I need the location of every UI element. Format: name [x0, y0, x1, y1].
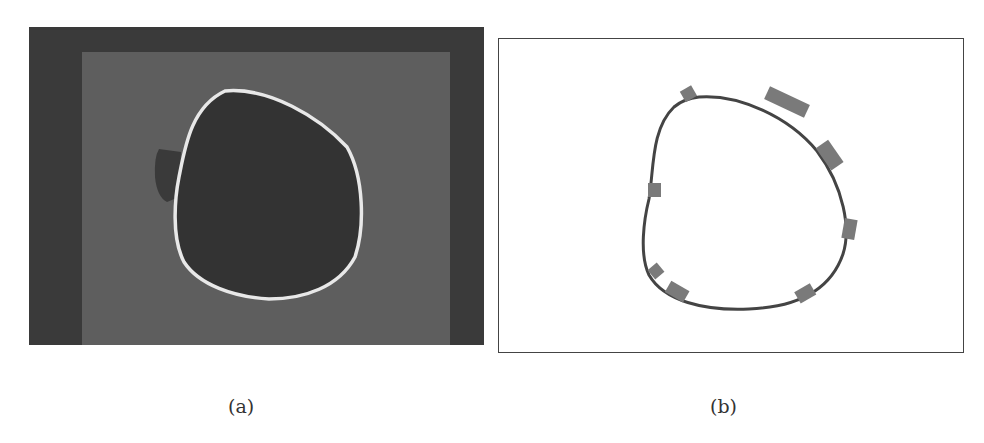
- contour-image-a: [29, 27, 484, 345]
- marker: [841, 218, 857, 240]
- bright-contour: [175, 91, 361, 299]
- caption-b: (b): [710, 395, 737, 417]
- contour-image-b: [499, 39, 963, 352]
- figure-panel-a: [29, 27, 484, 345]
- extracted-contour: [643, 97, 846, 310]
- marker: [680, 85, 697, 102]
- segment-markers: [648, 85, 858, 303]
- marker: [648, 183, 661, 197]
- caption-a: (a): [228, 395, 254, 417]
- figure-panel-b: [498, 38, 964, 353]
